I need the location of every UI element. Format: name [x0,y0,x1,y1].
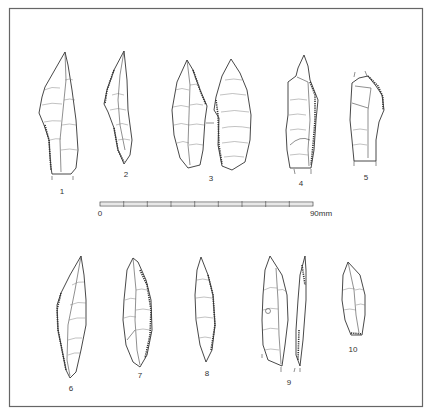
artifact-6-label: 6 [69,384,74,393]
artifact-3 [172,59,251,170]
artifact-1 [39,52,78,180]
artifact-2 [104,51,132,164]
artifact-7 [123,258,152,367]
artifact-7-label: 7 [138,371,143,380]
artifact-2-label: 2 [124,170,129,179]
artifact-1-label: 1 [60,187,65,196]
artifact-8 [195,257,215,362]
artifact-4-label: 4 [299,179,304,188]
artifact-5 [350,71,384,166]
artifact-4 [286,55,318,174]
scale-end-label: 90mm [310,209,333,218]
scale-bar [100,201,313,207]
scale-start-label: 0 [98,209,103,218]
artifact-9 [262,256,306,372]
artifact-9-label: 9 [287,378,292,387]
artifact-3-label: 3 [209,174,214,183]
artifact-8-label: 8 [205,369,210,378]
artifact-10-label: 10 [349,345,358,354]
lithic-plate: 1 2 3 4 5 [0,0,430,415]
artifact-10 [342,262,365,335]
artifact-5-label: 5 [364,173,369,182]
artifact-6 [57,256,86,378]
